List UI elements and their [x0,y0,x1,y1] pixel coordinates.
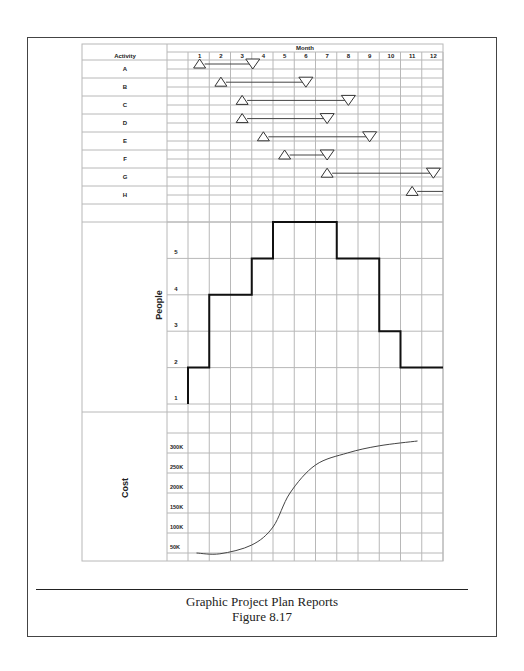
caption-title: Graphic Project Plan Reports [0,594,524,610]
activity-label: F [123,156,127,162]
month-label: 5 [283,53,287,59]
activity-label: D [123,120,128,126]
start-triangle-icon [215,77,227,86]
cost-tick-label: 200K [170,484,183,490]
start-triangle-icon [279,150,291,159]
month-label: 8 [347,53,351,59]
caption-divider [36,589,468,590]
people-tick-label: 3 [174,322,178,328]
start-triangle-icon [236,95,248,104]
people-tick-label: 2 [174,359,178,365]
start-triangle-icon [406,186,418,195]
month-label: 6 [304,53,308,59]
table-border [82,44,443,561]
activity-label: B [123,84,128,90]
month-label: 4 [262,53,266,59]
activity-label: C [123,102,128,108]
month-label: 11 [409,53,416,59]
activity-label: G [123,174,128,180]
start-triangle-icon [236,114,248,123]
activity-header: Activity [114,53,136,59]
month-label: 3 [241,53,245,59]
month-label: 10 [388,53,395,59]
cost-tick-label: 50K [170,544,180,550]
project-plan-chart: MonthActivity123456789101112 ABCDEFGH 12… [0,0,524,671]
people-tick-label: 4 [174,286,178,292]
month-label: 2 [219,53,223,59]
cost-curve-chart: 50K100K150K200K250K300KCost [120,441,418,554]
people-step-chart: 12345People [154,222,443,404]
grid-lines: MonthActivity123456789101112 [82,44,443,561]
month-header: Month [296,45,314,51]
people-tick-label: 5 [174,249,178,255]
activity-label: H [123,192,127,198]
people-tick-label: 1 [174,395,178,401]
month-label: 9 [368,53,372,59]
start-triangle-icon [321,168,333,177]
cost-tick-label: 250K [170,464,183,470]
cost-tick-label: 300K [170,444,183,450]
activity-label: A [123,66,128,72]
cost-curve [197,441,418,554]
month-label: 7 [326,53,330,59]
month-label: 12 [430,53,437,59]
caption-figure-number: Figure 8.17 [0,609,524,625]
activity-label: E [123,138,127,144]
cost-tick-label: 100K [170,524,183,530]
month-label: 1 [198,53,202,59]
cost-axis-label: Cost [120,478,130,498]
start-triangle-icon [257,132,269,141]
people-axis-label: People [154,290,164,320]
cost-tick-label: 150K [170,504,183,510]
